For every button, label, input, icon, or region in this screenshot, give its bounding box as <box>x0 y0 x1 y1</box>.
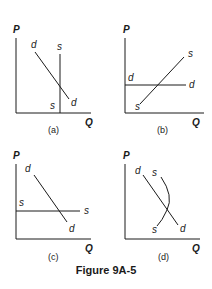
panel-c-d-label-top: d <box>25 163 31 174</box>
panel-b-d-label-left: d <box>128 72 134 83</box>
panel-c <box>16 164 91 239</box>
figure-title: Figure 9A-5 <box>0 264 212 276</box>
panel-b-q-label: Q <box>192 117 200 128</box>
panel-a-d-label-top: d <box>31 39 37 50</box>
panel-d-s-label-top: s <box>152 167 157 178</box>
figure-canvas: P Q d d s s (a) P Q d d s s (b) P Q d d … <box>0 0 212 289</box>
panel-d-p-label: P <box>123 150 130 161</box>
panel-b-s-label-bottom: s <box>135 101 140 112</box>
panel-b-caption: (b) <box>157 125 168 135</box>
panel-a-p-label: P <box>13 24 20 35</box>
panel-d-caption: (d) <box>158 252 169 262</box>
panel-d-q-label: Q <box>192 243 200 254</box>
panel-c-caption: (c) <box>48 252 59 262</box>
panel-a-demand-curve <box>35 52 69 99</box>
panel-d-s-label-bottom: s <box>152 224 157 235</box>
panel-c-d-label-bottom: d <box>69 223 75 234</box>
panel-d-supply-curve <box>157 177 169 226</box>
panel-b-p-label: P <box>123 24 130 35</box>
panel-a-s-label-top: s <box>57 41 62 52</box>
panel-a-d-label-bottom: d <box>71 97 77 108</box>
panel-a-caption: (a) <box>48 125 59 135</box>
panel-c-p-label: P <box>13 150 20 161</box>
panel-b-d-label-right: d <box>189 79 195 90</box>
panel-c-s-label-right: s <box>84 205 89 216</box>
panel-c-q-label: Q <box>85 243 93 254</box>
panel-d-demand-curve <box>143 175 178 225</box>
panel-b-supply-curve <box>140 57 184 104</box>
panel-a-s-label-bottom: s <box>50 100 55 111</box>
panel-d-d-label-top: d <box>135 165 141 176</box>
panel-a-q-label: Q <box>85 117 93 128</box>
panel-c-s-label-left: s <box>19 197 24 208</box>
panel-d-d-label-bottom: d <box>180 223 186 234</box>
panel-c-demand-curve <box>34 175 67 222</box>
panel-b-s-label-top: s <box>188 48 193 59</box>
